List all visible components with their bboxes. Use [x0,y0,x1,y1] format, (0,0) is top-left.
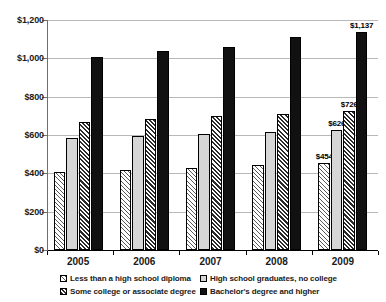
bar[interactable] [132,136,144,250]
bar[interactable] [186,168,198,250]
x-axis-tick-label: 2009 [332,256,354,267]
bar[interactable] [265,132,277,250]
bar-group [179,20,245,250]
x-axis-tick-label: 2007 [199,256,221,267]
bar[interactable] [157,51,169,250]
bar[interactable] [198,134,210,250]
y-axis-line [47,20,48,251]
legend-item[interactable]: Some college or associate degree [60,288,200,296]
legend-label: Less than a high school diploma [70,275,191,283]
bar[interactable] [277,114,289,250]
x-axis-tick-mark [47,251,48,255]
bar[interactable] [252,165,264,250]
bar[interactable] [356,32,368,250]
x-axis-tick-mark [312,251,313,255]
legend-swatch-icon [60,288,67,295]
y-axis-tick-label: $800 [0,92,44,102]
bar-group [312,20,378,250]
y-axis-tick-label: $600 [0,130,44,140]
legend-item[interactable]: High school graduates, no college [200,275,380,283]
legend-item[interactable]: Less than a high school diploma [60,275,200,283]
x-axis-tick-mark [179,251,180,255]
bar[interactable] [343,111,355,250]
bar[interactable] [331,130,343,250]
plot-area: $454$626$726$1,137 [47,20,378,250]
legend-label: Some college or associate degree [70,288,196,296]
legend-swatch-icon [200,275,207,282]
x-axis-tick-label: 2008 [266,256,288,267]
y-axis-tick-label: $1,200 [0,15,44,25]
chart-legend: Less than a high school diplomaHigh scho… [60,272,380,298]
bar[interactable] [120,170,132,250]
bar[interactable] [211,116,223,250]
y-axis-tick-label: $400 [0,168,44,178]
x-axis-tick-mark [378,251,379,255]
bar[interactable] [318,163,330,250]
legend-swatch-icon [60,275,67,282]
bar[interactable] [223,47,235,250]
y-axis-tick-label: $1,000 [0,53,44,63]
bar[interactable] [54,172,66,250]
bar-group [246,20,312,250]
bar[interactable] [145,119,157,250]
x-axis-tick-mark [113,251,114,255]
bar[interactable] [290,37,302,250]
y-axis-tick-label: $200 [0,207,44,217]
legend-swatch-icon [200,288,207,295]
bar[interactable] [79,122,91,250]
legend-label: High school graduates, no college [210,275,337,283]
bar-chart: $454$626$726$1,137 20052006200720082009 … [0,0,386,302]
x-axis-tick-label: 2006 [133,256,155,267]
x-axis: 20052006200720082009 [47,251,378,271]
legend-label: Bachelor's degree and higher [210,288,319,296]
legend-item[interactable]: Bachelor's degree and higher [200,288,380,296]
x-axis-tick-mark [246,251,247,255]
bar-group [113,20,179,250]
bar[interactable] [66,138,78,250]
bar-group [47,20,113,250]
bar[interactable] [91,57,103,250]
x-axis-tick-label: 2005 [67,256,89,267]
y-axis-tick-label: $0 [0,245,44,255]
